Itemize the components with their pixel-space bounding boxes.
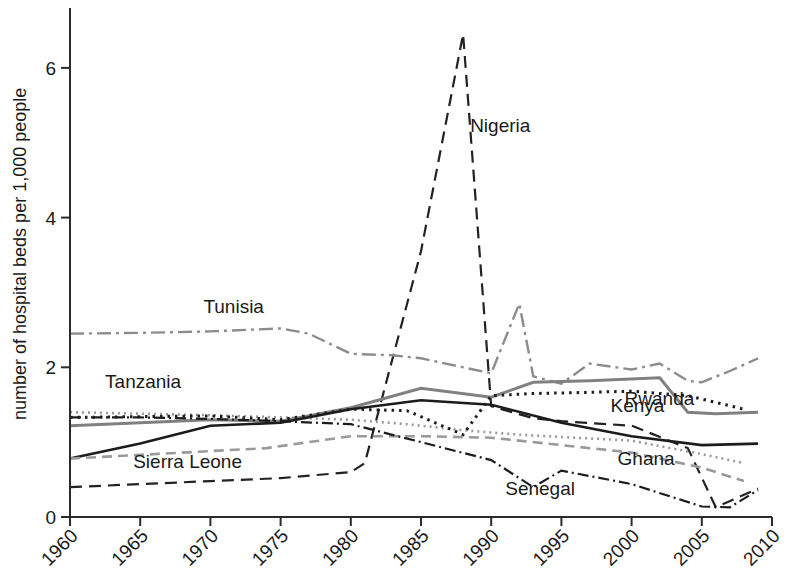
series-label-rwanda: Rwanda [625,388,695,409]
x-tick-label: 1980 [318,525,363,570]
series-labels-layer: NigeriaTunisiaTanzaniaKenyaGhanaRwandaSi… [105,115,695,499]
series-label-ghana: Ghana [618,448,675,469]
y-tick-label: 0 [45,507,56,528]
series-label-tanzania: Tanzania [105,371,181,392]
y-tick-label: 4 [45,208,56,229]
line-chart: 0246196019651970197519801985199019952000… [0,0,801,575]
chart-container: 0246196019651970197519801985199019952000… [0,0,801,575]
x-tick-label: 2010 [739,525,784,570]
y-tick-label: 2 [45,357,56,378]
x-tick-label: 1990 [458,525,503,570]
series-layer [70,34,758,507]
x-tick-label: 1995 [528,525,573,570]
x-tick-label: 1960 [37,525,82,570]
series-label-sierra-leone: Sierra Leone [133,451,242,472]
x-tick-label: 1965 [107,525,152,570]
series-label-senegal: Senegal [505,478,575,499]
series-label-tunisia: Tunisia [203,296,264,317]
x-tick-label: 1970 [177,525,222,570]
x-tick-label: 2000 [599,525,644,570]
series-label-nigeria: Nigeria [470,115,531,136]
y-axis-title: number of hospital beds per 1,000 people [10,88,30,420]
y-tick-label: 6 [45,58,56,79]
x-tick-label: 1975 [248,525,293,570]
x-tick-label: 2005 [669,525,714,570]
x-tick-label: 1985 [388,525,433,570]
